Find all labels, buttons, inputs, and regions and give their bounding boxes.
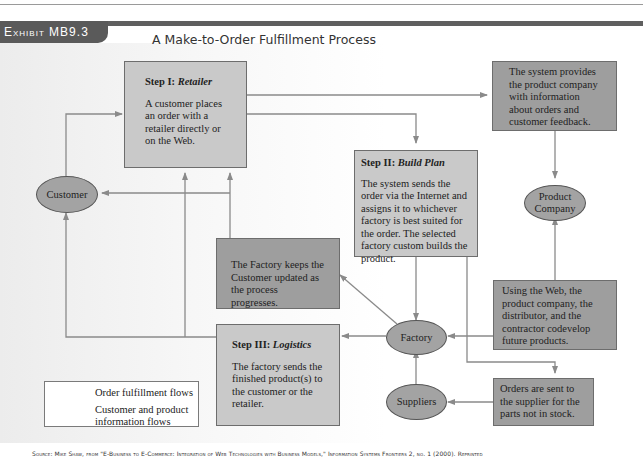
step-logistics-heading: Step III: Logistics	[232, 339, 324, 352]
step-name: Logistics	[273, 339, 312, 350]
system-info-text: The system provides the product company …	[509, 66, 600, 129]
step-build-plan-box: Step II: Build Plan The system sends the…	[354, 150, 478, 257]
codevelop-box: Using the Web, the product company, the …	[493, 280, 617, 350]
step-retailer-text: A customer places an order with a retail…	[145, 98, 226, 148]
step-build-plan-text: The system sends the order via the Inter…	[361, 178, 471, 266]
step-label: Step I:	[145, 76, 178, 87]
product-company-label: Product Company	[530, 191, 580, 215]
product-company-node: Product Company	[524, 185, 586, 221]
customer-node: Customer	[36, 176, 98, 213]
customer-label: Customer	[47, 189, 88, 201]
step-retailer-box: Step I: Retailer A customer places an or…	[124, 61, 247, 168]
step-logistics-text: The factory sends the finished product(s…	[232, 361, 324, 411]
step-retailer-heading: Step I: Retailer	[145, 76, 226, 89]
codevelop-text: Using the Web, the product company, the …	[502, 285, 608, 348]
factory-label: Factory	[400, 332, 432, 344]
step-name: Retailer	[178, 76, 212, 87]
step-label: Step III:	[232, 339, 273, 350]
legend: Order fulfillment flows Customer and pro…	[44, 381, 199, 427]
legend-label: Customer and product information flows	[95, 404, 188, 427]
suppliers-node: Suppliers	[386, 384, 447, 420]
step-name: Build Plan	[398, 157, 445, 168]
legend-item-order-fulfillment: Order fulfillment flows	[95, 387, 193, 399]
factory-update-text: The Factory keeps the Customer updated a…	[231, 259, 325, 309]
factory-update-box: The Factory keeps the Customer updated a…	[216, 238, 340, 309]
step-logistics-box: Step III: Logistics The factory sends th…	[216, 324, 340, 426]
orders-suppliers-box: Orders are sent to the supplier for the …	[493, 378, 594, 426]
orders-suppliers-text: Orders are sent to the supplier for the …	[500, 383, 587, 421]
legend-item-information-flows: Customer and product information flows	[95, 404, 195, 428]
system-info-box: The system provides the product company …	[492, 61, 617, 131]
legend-label: Order fulfillment flows	[95, 387, 193, 398]
step-build-plan-heading: Step II: Build Plan	[361, 157, 471, 170]
source-citation: Source: Mike Shaw, from "E-Business to E…	[32, 450, 483, 457]
step-label: Step II:	[361, 157, 398, 168]
factory-node: Factory	[386, 320, 447, 355]
suppliers-label: Suppliers	[397, 396, 437, 408]
